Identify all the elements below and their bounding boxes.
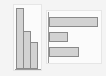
bar-a <box>49 17 98 27</box>
bar-b <box>49 32 68 42</box>
horizontal-bar-chart <box>46 10 102 64</box>
bar-c <box>49 47 79 57</box>
vertical-bar-chart <box>13 4 42 71</box>
x-axis <box>15 69 41 70</box>
bar-c <box>30 42 38 69</box>
